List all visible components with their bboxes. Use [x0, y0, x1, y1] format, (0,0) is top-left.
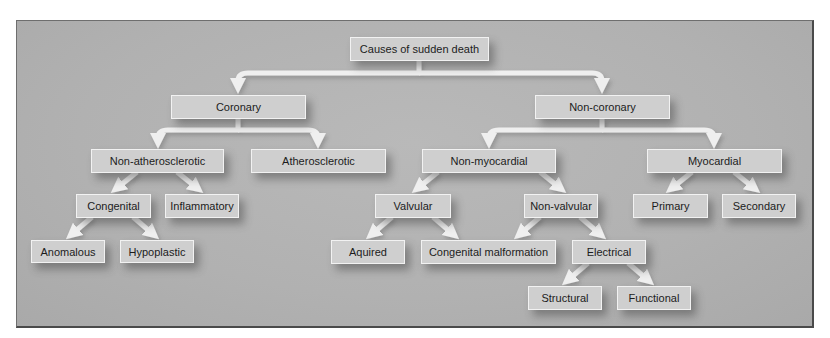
- arrow-nonvalvular-electrical: [580, 217, 600, 234]
- arrow-valvular-aquired: [372, 217, 392, 234]
- node-non-valvular: Non-valvular: [524, 194, 598, 218]
- node-inflammatory: Inflammatory: [165, 194, 239, 218]
- arrow-nonmyo-valvular: [418, 172, 438, 188]
- node-hypoplastic: Hypoplastic: [120, 240, 194, 263]
- node-causes-of-sudden-death: Causes of sudden death: [350, 37, 489, 61]
- arrow-root-noncoronary: [419, 73, 602, 86]
- arrow-nonvalvular-congmal: [520, 217, 540, 234]
- node-secondary: Secondary: [722, 194, 796, 218]
- node-congenital-malformation: Congenital malformation: [421, 240, 556, 264]
- arrow-myo-primary: [672, 172, 692, 188]
- arrow-electrical-structural: [568, 263, 588, 280]
- node-non-myocardial: Non-myocardial: [422, 149, 556, 173]
- node-electrical: Electrical: [572, 240, 646, 264]
- node-congenital: Congenital: [76, 194, 151, 218]
- node-atherosclerotic: Atherosclerotic: [251, 149, 386, 173]
- node-non-coronary: Non-coronary: [535, 95, 670, 119]
- arrow-nonmyo-nonvalvular: [540, 172, 560, 188]
- arrow-nonathero-congenital: [117, 172, 137, 188]
- node-primary: Primary: [633, 194, 708, 218]
- arrow-coronary-athero: [238, 130, 318, 141]
- node-myocardial: Myocardial: [647, 149, 782, 173]
- node-aquired: Aquired: [331, 240, 405, 264]
- node-anomalous: Anomalous: [31, 240, 105, 263]
- node-functional: Functional: [617, 286, 691, 310]
- arrow-congenital-anomalous: [72, 217, 92, 234]
- arrow-root-coronary: [238, 60, 419, 86]
- arrow-nonathero-inflammatory: [177, 172, 197, 188]
- arrow-electrical-functional: [628, 263, 648, 280]
- arrow-noncoronary-nonmyo: [489, 118, 602, 141]
- node-non-atherosclerotic: Non-atherosclerotic: [91, 149, 224, 173]
- arrow-coronary-nonathero: [158, 118, 238, 141]
- arrow-noncoronary-myo: [602, 130, 714, 141]
- arrow-valvular-congmal: [433, 217, 453, 234]
- node-valvular: Valvular: [375, 194, 451, 218]
- arrow-congenital-hypoplastic: [133, 217, 153, 234]
- node-coronary: Coronary: [171, 95, 306, 119]
- node-structural: Structural: [528, 286, 602, 310]
- arrow-myo-secondary: [734, 172, 754, 188]
